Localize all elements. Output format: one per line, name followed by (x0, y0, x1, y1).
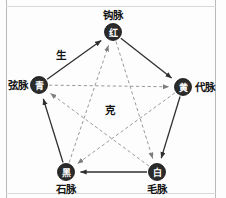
node-earth[interactable]: 黄代脉 (175, 79, 217, 96)
node-label-fire: 钩脉 (103, 9, 124, 21)
node-fire[interactable]: 红钩脉 (103, 9, 124, 41)
node-label-metal: 毛脉 (147, 183, 168, 195)
node-label-wood: 弦脉 (8, 79, 29, 91)
nodes-group: 红钩脉黄代脉白毛脉黑石脉青弦脉 (8, 9, 216, 195)
annotations-group: 生克 (56, 49, 116, 116)
node-water[interactable]: 黑石脉 (55, 164, 77, 196)
sheng-edge-water-to-wood (43, 99, 63, 163)
annotation-sheng: 生 (56, 49, 67, 61)
node-glyph-earth: 黄 (179, 82, 188, 93)
ke-edge-metal-to-wood (50, 93, 149, 166)
node-label-water: 石脉 (55, 183, 77, 195)
node-glyph-metal: 白 (153, 167, 162, 178)
node-glyph-wood: 青 (35, 80, 44, 91)
ke-edge-earth-to-water (77, 93, 175, 164)
annotation-ke: 克 (105, 104, 116, 116)
diagram-canvas: 红钩脉黄代脉白毛脉黑石脉青弦脉 生克 (0, 0, 226, 198)
node-glyph-fire: 红 (109, 27, 118, 38)
five-elements-diagram: 红钩脉黄代脉白毛脉黑石脉青弦脉 生克 (0, 0, 226, 198)
node-wood[interactable]: 青弦脉 (8, 77, 48, 94)
node-metal[interactable]: 白毛脉 (147, 164, 168, 196)
sheng-edge-fire-to-earth (121, 38, 172, 78)
ke-edge-wood-to-earth (49, 85, 169, 87)
node-glyph-water: 黑 (62, 168, 71, 178)
sheng-edge-earth-to-metal (161, 97, 180, 159)
node-label-earth: 代脉 (194, 81, 216, 93)
